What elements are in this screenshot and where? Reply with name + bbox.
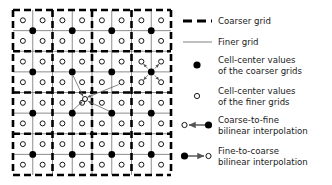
- legend-item-finer-grid: Finer grid: [183, 37, 259, 47]
- legend-label-coarse-cell-centers-line1: Cell-center values: [218, 55, 296, 65]
- legend-item-coarse-to-fine: Coarse-to-fine bilinear interpolation: [182, 115, 308, 136]
- arrow-filled-to-open-icon: [182, 121, 212, 128]
- filled-circle-icon: [193, 61, 200, 68]
- legend-label-fine-cell-centers-line1: Cell-center values: [218, 86, 296, 96]
- legend-label-coarser-grid: Coarser grid: [218, 16, 271, 26]
- legend-label-fine-to-coarse-line2: bilinear interpolation: [218, 157, 308, 167]
- mesh-refinement-diagram: Coarser grid Finer grid Cell-center valu…: [0, 0, 332, 185]
- legend-item-coarse-cell-centers: Cell-center values of the coarser grids: [193, 55, 302, 76]
- legend-label-finer-grid: Finer grid: [218, 37, 259, 47]
- grid-panel: [13, 10, 171, 175]
- legend-item-fine-to-coarse: Fine-to-coarse bilinear interpolation: [181, 146, 308, 167]
- legend-label-coarse-cell-centers-line2: of the coarser grids: [218, 66, 302, 76]
- legend-item-fine-cell-centers: Cell-center values of the finer grids: [194, 86, 296, 107]
- legend-label-coarse-to-fine-line2: bilinear interpolation: [218, 126, 308, 136]
- arrow-open-to-filled-icon: [181, 152, 211, 159]
- legend-label-coarse-to-fine-line1: Coarse-to-fine: [218, 115, 279, 125]
- legend-item-coarser-grid: Coarser grid: [183, 16, 271, 26]
- fine-to-coarse-target-circle: [83, 97, 88, 102]
- legend: Coarser grid Finer grid Cell-center valu…: [181, 16, 308, 167]
- open-circle-icon: [194, 93, 199, 98]
- legend-label-fine-to-coarse-line1: Fine-to-coarse: [218, 146, 279, 156]
- legend-label-fine-cell-centers-line2: of the finer grids: [218, 97, 290, 107]
